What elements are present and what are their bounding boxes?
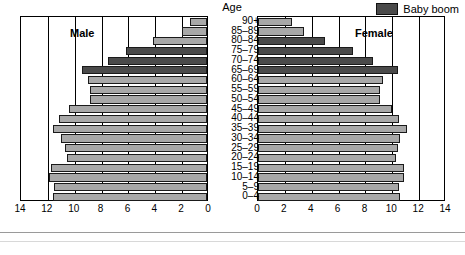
population-pyramid-chart: Baby boom Age Male Female 90+85–8980–847… xyxy=(0,0,465,255)
pyramid-row xyxy=(258,183,444,193)
pyramid-row xyxy=(258,163,444,173)
pyramid-row xyxy=(258,105,444,115)
bar-male xyxy=(65,144,207,152)
axis-tick-label: 8 xyxy=(362,203,368,214)
footer-rule xyxy=(0,232,465,233)
pyramid-row xyxy=(21,114,207,124)
female-plot-panel xyxy=(257,16,445,201)
pyramid-row xyxy=(21,105,207,115)
age-column-heading: Age xyxy=(196,1,268,13)
bar-female xyxy=(258,125,407,133)
bar-female-babyboom xyxy=(258,37,325,45)
bar-female xyxy=(258,134,400,142)
bar-male xyxy=(51,164,207,172)
bar-female-babyboom xyxy=(258,57,373,65)
pyramid-row xyxy=(21,192,207,202)
pyramid-row xyxy=(21,124,207,134)
female-panel-caption: Female xyxy=(355,27,393,39)
axis-tick-label: 4 xyxy=(308,203,314,214)
axis-tick-label: 12 xyxy=(41,203,52,214)
axis-tick-label: 2 xyxy=(178,203,184,214)
bar-female-babyboom xyxy=(258,66,398,74)
footer-rule-secondary xyxy=(0,241,465,242)
pyramid-row xyxy=(258,192,444,202)
bar-female xyxy=(258,95,380,103)
male-plot-panel xyxy=(20,16,208,201)
pyramid-row xyxy=(21,27,207,37)
bar-female xyxy=(258,193,400,201)
axis-tick-label: 2 xyxy=(281,203,287,214)
bar-female xyxy=(258,76,383,84)
bar-female xyxy=(258,154,396,162)
pyramid-row xyxy=(21,95,207,105)
pyramid-row xyxy=(21,75,207,85)
age-group-labels: 90+85–8980–8475–7970–7465–6960–6455–5950… xyxy=(196,16,268,201)
bar-female xyxy=(258,164,404,172)
pyramid-row xyxy=(21,153,207,163)
pyramid-row xyxy=(258,173,444,183)
pyramid-row xyxy=(258,153,444,163)
pyramid-row xyxy=(21,66,207,76)
pyramid-row xyxy=(21,56,207,66)
pyramid-row xyxy=(258,85,444,95)
pyramid-row xyxy=(258,114,444,124)
baby-boom-legend-swatch xyxy=(376,3,398,15)
pyramid-row xyxy=(258,134,444,144)
axis-tick-label: 4 xyxy=(152,203,158,214)
pyramid-row xyxy=(21,134,207,144)
pyramid-row xyxy=(258,75,444,85)
bar-male xyxy=(69,105,207,113)
pyramid-row xyxy=(21,17,207,27)
axis-tick-label: 10 xyxy=(386,203,397,214)
bar-female xyxy=(258,183,399,191)
bar-male xyxy=(90,86,207,94)
female-x-axis: 02468101214 xyxy=(257,203,445,217)
pyramid-row xyxy=(258,17,444,27)
axis-tick-label: 14 xyxy=(439,203,450,214)
male-panel-caption: Male xyxy=(70,27,94,39)
pyramid-row xyxy=(21,46,207,56)
bar-male xyxy=(59,115,207,123)
axis-tick-label: 6 xyxy=(335,203,341,214)
bar-male xyxy=(90,95,207,103)
pyramid-row xyxy=(258,124,444,134)
pyramid-row xyxy=(21,144,207,154)
pyramid-row xyxy=(21,163,207,173)
bar-female xyxy=(258,105,392,113)
pyramid-row xyxy=(258,46,444,56)
pyramid-row xyxy=(21,36,207,46)
bar-male xyxy=(88,76,208,84)
pyramid-row xyxy=(258,36,444,46)
pyramid-row xyxy=(21,85,207,95)
bar-male xyxy=(53,125,207,133)
pyramid-row xyxy=(258,144,444,154)
bar-female xyxy=(258,144,398,152)
axis-tick-label: 8 xyxy=(98,203,104,214)
bar-female xyxy=(258,115,399,123)
bar-male xyxy=(61,134,207,142)
baby-boom-legend-label: Baby boom xyxy=(403,4,459,15)
bar-male-babyboom xyxy=(82,66,207,74)
male-bar-group xyxy=(21,17,207,200)
bar-female-babyboom xyxy=(258,47,353,55)
bar-male xyxy=(54,183,207,191)
axis-tick-label: 0 xyxy=(205,203,211,214)
axis-tick-label: 12 xyxy=(413,203,424,214)
pyramid-row xyxy=(21,183,207,193)
pyramid-row xyxy=(258,95,444,105)
male-x-axis: 14121086420 xyxy=(20,203,208,217)
bar-male-babyboom xyxy=(126,47,207,55)
age-group-label: 0–4 xyxy=(242,191,259,201)
bar-male-babyboom xyxy=(108,57,207,65)
pyramid-row xyxy=(21,173,207,183)
axis-tick-label: 14 xyxy=(14,203,25,214)
bar-male xyxy=(49,173,207,181)
axis-tick-label: 0 xyxy=(254,203,260,214)
bar-male xyxy=(67,154,207,162)
bar-female xyxy=(258,86,380,94)
axis-tick-label: 10 xyxy=(68,203,79,214)
bar-male xyxy=(53,193,207,201)
chart-legend: Baby boom xyxy=(376,2,459,16)
pyramid-row xyxy=(258,66,444,76)
axis-tick-label: 6 xyxy=(125,203,131,214)
